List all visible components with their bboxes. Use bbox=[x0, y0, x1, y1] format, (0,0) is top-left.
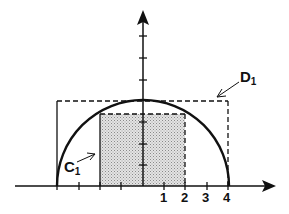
diagram-canvas bbox=[0, 0, 289, 214]
x-tick-label-1: 1 bbox=[160, 191, 167, 204]
x-tick-label-2: 2 bbox=[181, 191, 188, 204]
d1-pointer-arrow-icon bbox=[217, 82, 239, 97]
x-tick-label-3: 3 bbox=[202, 191, 209, 204]
label-d1: D1 bbox=[240, 69, 256, 87]
label-c1: C1 bbox=[64, 159, 80, 177]
x-tick-label-4: 4 bbox=[223, 191, 230, 204]
